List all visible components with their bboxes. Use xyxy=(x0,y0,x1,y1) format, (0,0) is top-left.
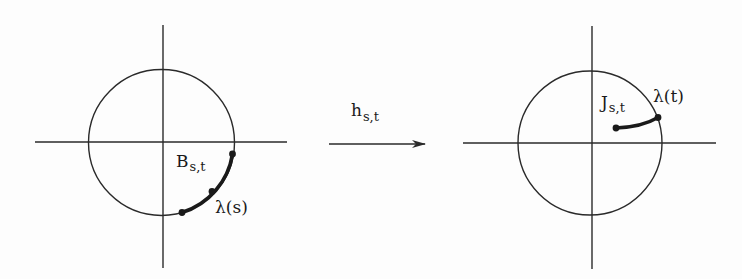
diagram-canvas: Bs,t λ(s) hs,t Js,t λ(t) xyxy=(0,0,742,279)
left-lambda-s-dot xyxy=(209,188,216,195)
left-arc-start-dot xyxy=(229,151,236,158)
left-arc-end-dot xyxy=(179,209,186,216)
left-panel: Bs,t λ(s) xyxy=(35,25,287,268)
right-curve-j xyxy=(616,118,658,129)
right-lambda-t-label: λ(t) xyxy=(653,86,684,106)
diagram-svg: Bs,t λ(s) hs,t Js,t λ(t) xyxy=(0,0,742,279)
right-curve-start-dot xyxy=(613,125,620,132)
right-curve-label: Js,t xyxy=(599,92,626,115)
right-lambda-t-dot xyxy=(655,114,662,121)
mapping-arrow: hs,t xyxy=(329,100,425,144)
left-lambda-s-label: λ(s) xyxy=(215,197,248,217)
arrow-label: hs,t xyxy=(351,100,380,124)
right-panel: Js,t λ(t) xyxy=(463,26,716,269)
left-arc-label: Bs,t xyxy=(176,151,206,174)
